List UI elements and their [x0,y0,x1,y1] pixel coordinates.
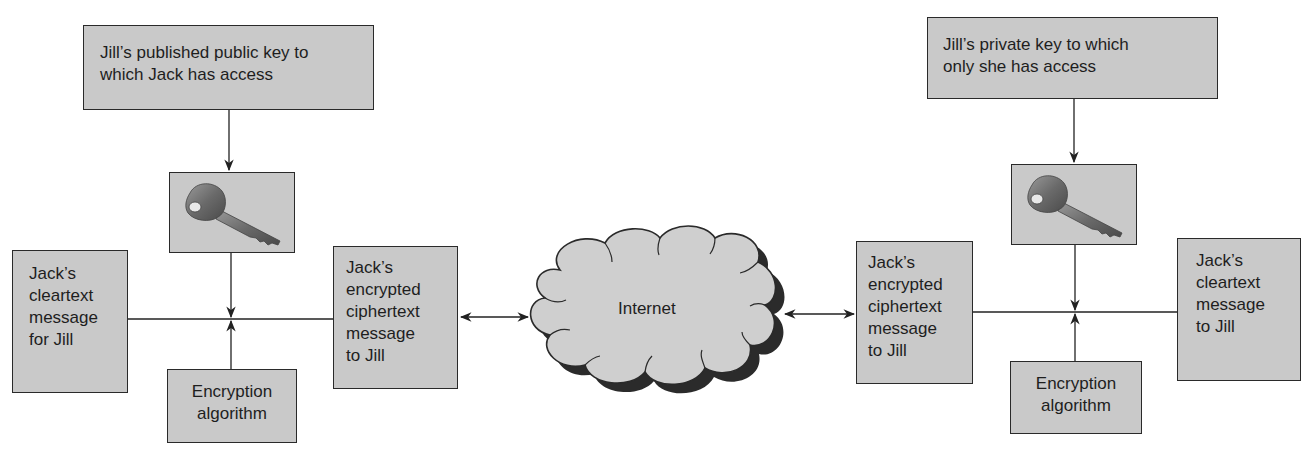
algorithm-right-line2: algorithm [1011,395,1141,417]
key-icon [172,175,292,251]
cleartext-left-line1: Jack’s [29,263,98,285]
private-key-source-box: Jill’s private key to which only she has… [927,17,1218,99]
cleartext-right-line3: message [1196,294,1265,316]
ciphertext-right-line3: ciphertext [868,296,943,318]
cleartext-left-line3: message [29,307,98,329]
private-key-source-line2: only she has access [943,56,1129,78]
ciphertext-right-line1: Jack’s [868,252,943,274]
algorithm-left-line2: algorithm [168,403,296,425]
public-key-box [169,172,295,253]
cleartext-left-line4: for Jill [29,329,98,351]
algorithm-left-line1: Encryption [168,381,296,403]
encryption-algorithm-box-left: Encryption algorithm [167,369,297,443]
ciphertext-left-line1: Jack’s [346,257,421,279]
ciphertext-left-line5: to Jill [346,345,421,367]
internet-label: Internet [618,299,676,319]
encryption-algorithm-box-right: Encryption algorithm [1010,361,1142,434]
ciphertext-box-right: Jack’s encrypted ciphertext message to J… [856,241,973,384]
ciphertext-left-line4: message [346,323,421,345]
ciphertext-left-line3: ciphertext [346,301,421,323]
public-key-encryption-diagram: Jill’s published public key to which Jac… [0,0,1311,449]
cleartext-box-right: Jack’s cleartext message to Jill [1177,238,1301,381]
algorithm-right-line1: Encryption [1011,373,1141,395]
public-key-source-box: Jill’s published public key to which Jac… [83,25,374,110]
key-icon [1014,167,1134,243]
cleartext-right-line4: to Jill [1196,316,1265,338]
cleartext-right-line2: cleartext [1196,272,1265,294]
ciphertext-left-line2: encrypted [346,279,421,301]
public-key-source-line2: which Jack has access [100,64,309,86]
private-key-source-line1: Jill’s private key to which [943,34,1129,56]
ciphertext-right-line4: message [868,318,943,340]
public-key-source-line1: Jill’s published public key to [100,42,309,64]
cleartext-box-left: Jack’s cleartext message for Jill [12,250,128,393]
cleartext-left-line2: cleartext [29,285,98,307]
ciphertext-right-line5: to Jill [868,340,943,362]
ciphertext-right-line2: encrypted [868,274,943,296]
cleartext-right-line1: Jack’s [1196,250,1265,272]
ciphertext-box-left: Jack’s encrypted ciphertext message to J… [333,246,458,389]
private-key-box [1011,164,1137,245]
